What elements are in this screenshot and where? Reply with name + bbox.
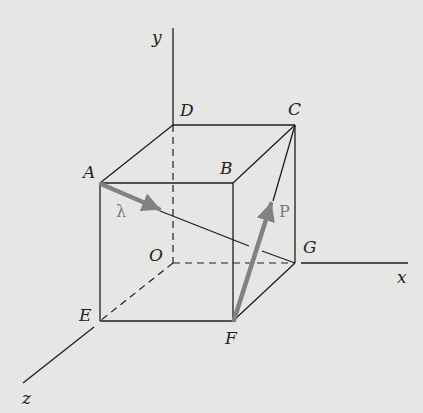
edge-AD — [100, 125, 173, 183]
label-point-B: B — [219, 158, 233, 178]
label-point-A: A — [81, 162, 95, 182]
label-point-D: D — [179, 100, 194, 120]
label-point-E: E — [78, 305, 92, 325]
label-z-axis: z — [21, 388, 32, 408]
vectors — [101, 184, 271, 320]
label-x-axis: x — [397, 267, 407, 287]
diagonal-AG-1 — [160, 211, 249, 246]
label-point-F: F — [224, 328, 238, 348]
z-axis — [23, 327, 94, 383]
label-point-C: C — [288, 99, 301, 119]
diagonal-AG-2 — [262, 251, 295, 263]
label-point-G: G — [303, 237, 317, 257]
diagonal-FC — [273, 125, 295, 201]
edge-BC — [233, 125, 295, 183]
label-P: P — [279, 202, 290, 221]
lambda-vector-arrow — [101, 184, 159, 209]
axes — [23, 28, 408, 383]
label-lambda: λ — [116, 202, 126, 221]
label-y-axis: y — [151, 27, 162, 47]
label-point-O: O — [149, 245, 163, 265]
edge-OE — [100, 263, 173, 321]
cube-vector-diagram: y x z D C A B O G E F λ P — [0, 0, 423, 413]
